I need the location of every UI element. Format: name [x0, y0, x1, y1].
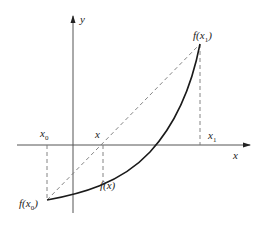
x0-label: x0: [40, 128, 48, 142]
diagram-canvas: [0, 0, 264, 228]
secant-line: [47, 44, 200, 200]
f-x0-label: f(x0): [19, 198, 38, 212]
y-axis-label: y: [80, 14, 85, 25]
f-x-label: f(x): [100, 180, 115, 191]
f-x1-label: f(x1): [193, 30, 212, 44]
secant-method-diagram: y x x0 x x1 f(x0) f(x) f(x1): [0, 0, 264, 228]
x-axis-label: x: [233, 150, 238, 161]
x1-label: x1: [208, 130, 216, 144]
x-label: x: [95, 129, 100, 140]
